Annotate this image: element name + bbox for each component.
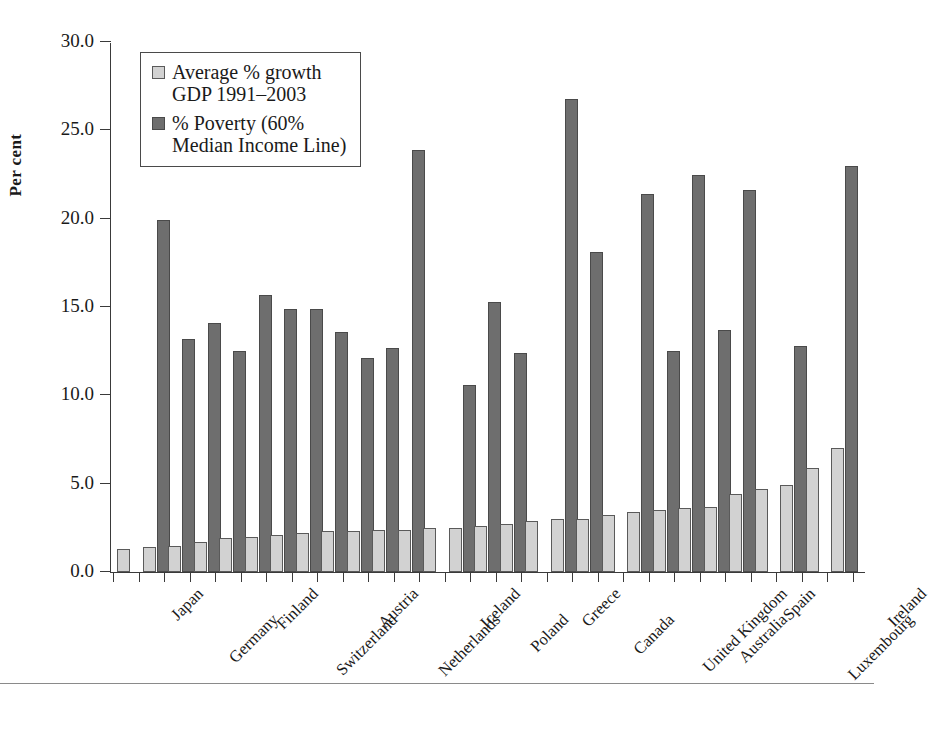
bar-group (423, 43, 449, 572)
bar-growth (500, 524, 513, 572)
legend-item-poverty: % Poverty (60% Median Income Line) (152, 112, 346, 157)
bar-growth (423, 528, 436, 572)
bar-growth (780, 485, 793, 572)
bar-group (576, 43, 602, 572)
bar-group (729, 43, 755, 572)
legend-label-poverty: % Poverty (60% Median Income Line) (172, 112, 346, 157)
bar-group (831, 43, 857, 572)
y-tick-label: 0.0 (28, 560, 94, 582)
x-tick (725, 572, 726, 582)
bar-group (500, 43, 526, 572)
x-tick (113, 572, 114, 582)
x-tick (139, 572, 140, 582)
bar-growth (245, 537, 258, 572)
bar-growth (117, 549, 130, 572)
legend-label-growth: Average % growth GDP 1991–2003 (172, 61, 322, 106)
bar-group (398, 43, 424, 572)
y-tick: 25.0 (100, 129, 111, 130)
bar-growth (372, 530, 385, 572)
y-axis-title: Per cent (6, 95, 26, 235)
x-axis-label-canada: Canada (630, 610, 679, 659)
bar-group (117, 43, 143, 572)
x-tick (266, 572, 267, 582)
x-axis-label-finland: Finland (273, 584, 323, 634)
bottom-rule-divider (0, 683, 874, 684)
bar-group (780, 43, 806, 572)
bar-group (806, 43, 832, 572)
y-tick: 20.0 (100, 218, 111, 219)
x-tick (292, 572, 293, 582)
bar-growth (576, 519, 589, 572)
bar-growth (551, 519, 564, 572)
bar-growth (296, 533, 309, 572)
x-tick (164, 572, 165, 582)
bar-growth (602, 515, 615, 572)
y-tick: 10.0 (100, 394, 111, 395)
bar-growth (755, 489, 768, 572)
legend-swatch-growth-icon (152, 66, 165, 79)
bar-group (653, 43, 679, 572)
y-tick-label: 20.0 (28, 207, 94, 229)
bar-growth (321, 531, 334, 572)
x-tick (700, 572, 701, 582)
x-axis-label-japan: Japan (167, 584, 208, 625)
bar-poverty (845, 166, 858, 572)
y-tick: 15.0 (100, 306, 111, 307)
bar-growth (474, 526, 487, 572)
x-tick (445, 572, 446, 582)
x-tick (827, 572, 828, 582)
bar-group (678, 43, 704, 572)
bar-group (602, 43, 628, 572)
bar-growth (653, 510, 666, 572)
bar-group (449, 43, 475, 572)
x-tick (394, 572, 395, 582)
y-tick-label: 30.0 (28, 30, 94, 52)
bar-group (704, 43, 730, 572)
bar-growth (831, 448, 844, 572)
legend-swatch-poverty-icon (152, 117, 165, 130)
x-tick (215, 572, 216, 582)
bar-growth (525, 521, 538, 572)
y-tick: 5.0 (100, 483, 111, 484)
x-tick (598, 572, 599, 582)
x-tick (623, 572, 624, 582)
bar-growth (449, 528, 462, 572)
bar-growth (704, 507, 717, 572)
bar-growth (270, 535, 283, 572)
bar-growth (398, 530, 411, 572)
legend-item-growth: Average % growth GDP 1991–2003 (152, 61, 346, 106)
bar-group (525, 43, 551, 572)
bar-group (372, 43, 398, 572)
bar-growth (729, 494, 742, 572)
x-tick (190, 572, 191, 582)
bar-group (755, 43, 781, 572)
y-tick-label: 25.0 (28, 118, 94, 140)
y-tick-label: 10.0 (28, 383, 94, 405)
x-tick (521, 572, 522, 582)
x-axis-label-greece: Greece (578, 584, 625, 631)
x-tick (572, 572, 573, 582)
x-tick (776, 572, 777, 582)
x-axis-label-poland: Poland (527, 610, 574, 657)
bar-growth (194, 542, 207, 572)
x-tick (496, 572, 497, 582)
bar-growth (627, 512, 640, 572)
bar-group (627, 43, 653, 572)
y-tick: 0.0 (100, 571, 111, 572)
bar-growth (347, 531, 360, 572)
chart-legend: Average % growth GDP 1991–2003 % Poverty… (140, 52, 361, 167)
y-tick-label: 5.0 (28, 472, 94, 494)
x-tick (343, 572, 344, 582)
x-tick (802, 572, 803, 582)
bar-group (474, 43, 500, 572)
x-tick (853, 572, 854, 582)
x-tick (241, 572, 242, 582)
x-tick (368, 572, 369, 582)
x-tick (751, 572, 752, 582)
x-tick (317, 572, 318, 582)
bar-group (551, 43, 577, 572)
bar-growth (168, 546, 181, 573)
y-tick: 30.0 (100, 41, 111, 42)
x-tick (419, 572, 420, 582)
